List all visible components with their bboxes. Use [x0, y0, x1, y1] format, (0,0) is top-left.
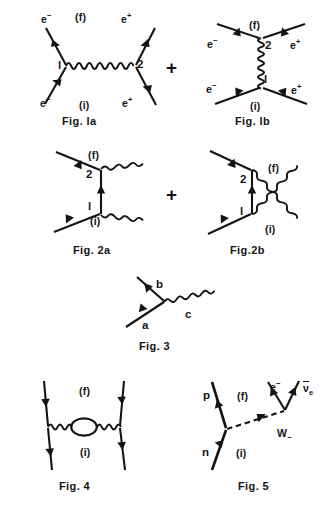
fig1b-label-positron-top-right: e+ — [290, 38, 301, 50]
fig1b-label-electron-bottom-left: e− — [206, 82, 217, 94]
fig1a-caption: Fig. la — [62, 116, 97, 127]
fig2b-label-vertex-bottom: l — [240, 206, 243, 218]
fig3-diagram — [122, 275, 232, 331]
fig5-label-electron: e− — [270, 380, 281, 392]
fig1a-label-electron-top-left: e− — [41, 12, 52, 24]
fig2b-label-vertex-top: 2 — [240, 174, 247, 186]
fig1a-label-vertex-right: 2 — [137, 59, 144, 71]
fig1b-label-positron-bottom-right: e+ — [291, 83, 302, 95]
arrowhead-icon — [117, 442, 126, 450]
arrowhead-icon — [221, 214, 229, 223]
photon-wavy-line — [101, 163, 143, 170]
w-boson-dashed-line — [227, 411, 284, 429]
fig2b-label-initial-state: (i) — [265, 224, 276, 235]
photon-wavy-line — [101, 214, 143, 221]
fermion-line — [285, 381, 299, 410]
fig4-caption: Fig. 4 — [59, 481, 90, 492]
plus-operator-row2: + — [166, 185, 177, 204]
arrowhead-icon — [143, 85, 152, 93]
fig1a-label-vertex-left: l — [58, 60, 61, 72]
fig5-caption: Fig. 5 — [238, 481, 269, 492]
fermion-line — [46, 28, 66, 65]
arrowhead-icon — [52, 79, 61, 86]
vacuum-polarization-loop — [71, 418, 97, 435]
fig1b-caption: Fig. lb — [235, 116, 270, 127]
fig1a-label-initial-state: (i) — [79, 100, 90, 111]
fig1b-label-vertex-bottom: l — [264, 74, 267, 86]
fig2b-diagram — [205, 148, 320, 238]
fermion-line — [208, 214, 251, 234]
arrowhead-icon — [51, 40, 60, 47]
fig1b-label-initial-state: (i) — [250, 101, 261, 112]
arrowhead-icon — [97, 185, 105, 194]
fig1a-label-positron-bottom-right: e+ — [122, 96, 133, 108]
arrowhead-icon — [117, 396, 126, 404]
fig2a-label-vertex-top: 2 — [86, 169, 93, 181]
fig2a-label-initial-state: (i) — [90, 216, 101, 227]
fig3-label-outgoing-b: b — [156, 279, 163, 291]
photon-wavy-line — [48, 425, 72, 430]
arrowhead-icon — [66, 214, 74, 223]
plus-operator-row1: + — [166, 58, 177, 77]
fig4-label-final-state: (f) — [79, 386, 90, 397]
fig3-caption: Fig. 3 — [139, 341, 170, 352]
fig1b-label-final-state: (f) — [249, 20, 260, 31]
fig2b-label-final-state: (f) — [268, 163, 279, 174]
fermion-line — [212, 430, 226, 470]
photon-wavy-line — [164, 291, 214, 302]
fig5-label-initial-state: (i) — [236, 448, 247, 459]
fig1a-label-positron-top-right: e+ — [121, 12, 132, 24]
arrowhead-icon — [139, 303, 148, 312]
fig2a-diagram — [48, 148, 158, 236]
fig1b-label-vertex-top: 2 — [265, 40, 272, 52]
photon-wavy-line — [97, 425, 121, 430]
fig2a-caption: Fig. 2a — [73, 245, 111, 256]
fig2b-caption: Fig.2b — [230, 245, 265, 256]
fig4-label-initial-state: (i) — [80, 447, 91, 458]
fig5-label-final-state: (f) — [237, 391, 248, 402]
fig3-label-incoming-a: a — [142, 320, 149, 332]
photon-wavy-line — [66, 63, 134, 69]
arrowhead-icon — [144, 283, 153, 293]
fig5-label-neutron: n — [202, 447, 209, 459]
fig3-label-photon-c: c — [185, 309, 192, 321]
fig5-label-w-boson: W− — [277, 428, 292, 442]
fig2a-label-vertex-bottom: l — [88, 201, 91, 213]
fig5-label-proton: p — [203, 390, 210, 402]
fig1a-label-electron-bottom-left: e− — [40, 96, 51, 108]
fig2a-label-final-state: (f) — [88, 150, 99, 161]
fig1a-label-final-state: (f) — [75, 12, 86, 23]
figure-sheet: e− (f) e+ l 2 e− (i) e+ Fig. la + (f) e−… — [0, 0, 336, 518]
fig5-label-antineutrino: νe — [303, 383, 313, 397]
photon-wavy-line-crossed — [252, 170, 297, 219]
arrowhead-icon — [41, 399, 50, 407]
arrowhead-icon — [248, 185, 256, 194]
fig1b-diagram — [205, 18, 320, 110]
fermion-line — [210, 151, 251, 170]
fig1b-label-electron-top-left: e− — [207, 37, 218, 49]
